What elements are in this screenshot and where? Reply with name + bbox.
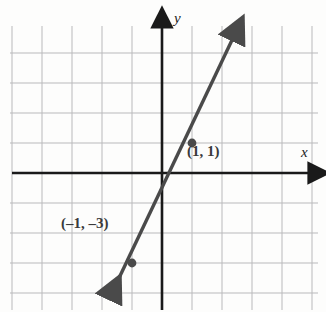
x-axis-label: x [301, 144, 308, 161]
point-label-1-1: (1, 1) [187, 143, 220, 160]
point-marker-neg1-neg3 [128, 259, 137, 268]
plotted-line [110, 38, 233, 297]
y-axis-label: y [174, 10, 181, 27]
coordinate-plane-svg [0, 0, 326, 312]
graph-figure: (1, 1) (–1, –3) x y [0, 0, 326, 312]
point-label-neg1-neg3: (–1, –3) [61, 215, 109, 232]
